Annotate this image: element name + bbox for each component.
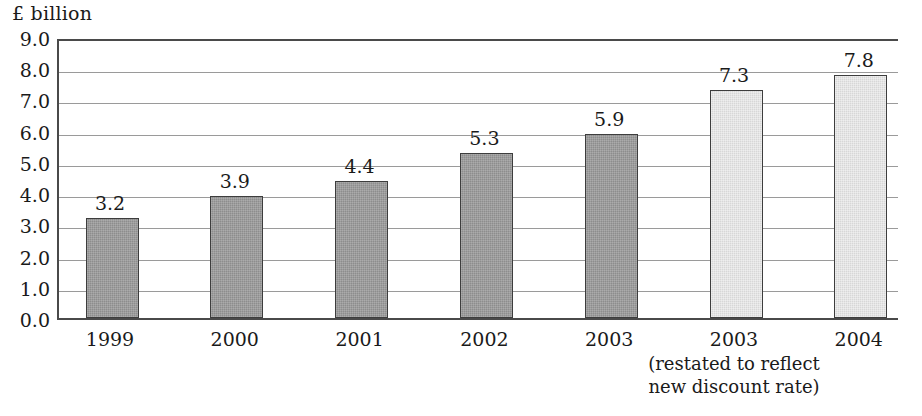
- bar: [210, 196, 263, 318]
- x-axis-tick-label: 2003: [679, 328, 789, 350]
- bar-value-label: 5.9: [569, 110, 649, 129]
- restated-annotation: (restated to reflect new discount rate): [584, 352, 884, 398]
- x-axis-tick-label: 2000: [180, 328, 290, 350]
- bar-value-label: 7.8: [819, 51, 899, 70]
- y-axis-tick-label: 6.0: [2, 124, 50, 143]
- x-axis-tick-label: 1999: [55, 328, 165, 350]
- y-axis-tick-label: 9.0: [2, 30, 50, 49]
- y-axis-tick-label: 3.0: [2, 217, 50, 236]
- bar: [585, 134, 638, 318]
- bar-value-label: 4.4: [320, 157, 400, 176]
- bar: [460, 153, 513, 319]
- x-axis-tick-label: 2004: [804, 328, 914, 350]
- x-axis-tick-label: 2003: [554, 328, 664, 350]
- bar-value-label: 3.2: [70, 194, 150, 213]
- bar: [86, 218, 139, 318]
- gridline: [59, 103, 898, 104]
- bar-value-label: 3.9: [195, 172, 275, 191]
- bar-value-label: 5.3: [444, 129, 524, 148]
- bar: [834, 75, 887, 319]
- bar-value-label: 7.3: [694, 66, 774, 85]
- y-axis-tick-label: 7.0: [2, 92, 50, 111]
- y-axis-tick-label: 2.0: [2, 249, 50, 268]
- x-axis-tick-label: 2002: [429, 328, 539, 350]
- y-axis-tick-label: 0.0: [2, 311, 50, 330]
- y-axis-tick-label: 1.0: [2, 280, 50, 299]
- bar: [335, 181, 388, 318]
- y-axis-unit-label: £ billion: [12, 2, 92, 24]
- x-axis-tick-label: 2001: [305, 328, 415, 350]
- y-axis-tick-label: 8.0: [2, 61, 50, 80]
- bar-chart: £ billion 9.08.07.06.05.04.03.02.01.00.0…: [0, 0, 922, 416]
- y-axis-tick-label: 4.0: [2, 186, 50, 205]
- y-axis-tick-label: 5.0: [2, 155, 50, 174]
- bar: [710, 90, 763, 318]
